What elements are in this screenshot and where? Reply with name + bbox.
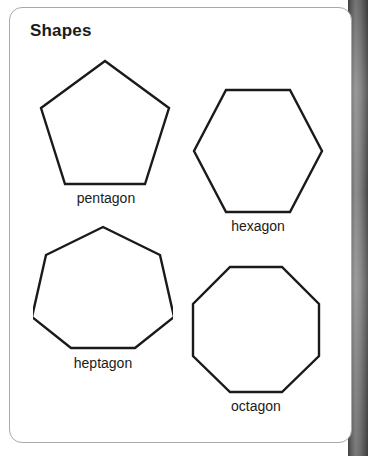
- worksheet-page: Shapes pentagon hexagon heptagon octagon: [0, 0, 370, 464]
- heptagon-shape: [33, 222, 173, 354]
- hexagon-polygon: [194, 90, 322, 212]
- octagon-shape: [186, 262, 326, 397]
- hexagon-label: hexagon: [188, 218, 328, 235]
- figure-hexagon: hexagon: [188, 85, 328, 235]
- figure-heptagon: heptagon: [33, 222, 173, 372]
- octagon-polygon: [193, 267, 319, 392]
- hexagon-shape: [188, 85, 328, 217]
- heptagon-label: heptagon: [33, 355, 173, 372]
- page-title: Shapes: [30, 21, 92, 41]
- octagon-label: octagon: [186, 398, 326, 415]
- figure-pentagon: pentagon: [36, 55, 176, 207]
- figure-octagon: octagon: [186, 262, 326, 415]
- pentagon-label: pentagon: [36, 190, 176, 207]
- pentagon-shape: [36, 55, 176, 189]
- heptagon-polygon: [33, 227, 173, 348]
- pentagon-polygon: [41, 61, 169, 184]
